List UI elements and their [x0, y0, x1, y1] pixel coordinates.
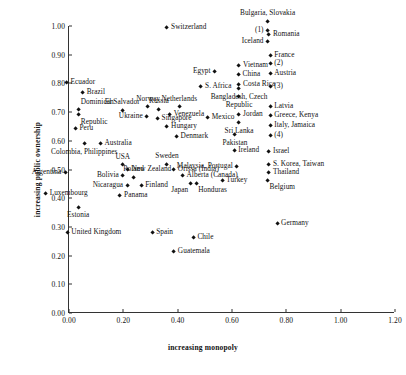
data-point-label: Mexico [212, 113, 235, 121]
data-point-label: (1) [255, 26, 264, 34]
data-point-label: China [243, 70, 261, 78]
y-tick-label: 0.30 [51, 222, 65, 231]
data-point-label: Denmark [181, 132, 209, 140]
data-point-label: Finland [145, 181, 168, 189]
y-tick-label: 1.00 [51, 22, 65, 31]
x-tick-label: 0.80 [280, 316, 294, 325]
data-point-label: Jordan [243, 110, 263, 118]
data-point-label: Nicaragua [93, 181, 123, 189]
y-tick-mark [69, 284, 72, 285]
y-tick-label: 0.90 [51, 50, 65, 59]
data-point-label: Iceland [242, 37, 264, 45]
data-point-label: Ukraine [119, 112, 143, 120]
data-point-label: Sweden [155, 152, 178, 160]
data-point-label: Austria [274, 69, 296, 77]
data-point-label: Luxembourg [50, 189, 88, 197]
data-point-label: Italy, Jamaica [274, 121, 315, 129]
x-tick-mark [69, 309, 70, 312]
y-tick-mark [69, 26, 72, 27]
data-point-label: Netherlands [161, 95, 197, 103]
data-point-marker [63, 170, 68, 175]
data-point-label: Honduras [198, 186, 227, 194]
data-point-label: Belgium [270, 183, 295, 191]
y-tick-label: 0.80 [51, 79, 65, 88]
data-point-marker [265, 19, 270, 24]
y-tick-mark [69, 169, 72, 170]
data-point-label: (4) [274, 131, 283, 139]
data-point-label: Sri Lanka [225, 127, 254, 135]
data-point-marker [43, 191, 48, 196]
x-tick-label: 0.00 [62, 316, 76, 325]
x-tick-label: 0.40 [171, 316, 185, 325]
data-point-label: (2) [274, 59, 283, 67]
data-point-marker [188, 181, 193, 186]
data-point-label: Thailand [273, 168, 299, 176]
y-tick-mark [69, 54, 72, 55]
y-tick-label: 0.70 [51, 108, 65, 117]
data-point-label: Colombia, Philippines [51, 148, 117, 156]
x-tick-mark [340, 309, 341, 312]
y-tick-mark [69, 198, 72, 199]
data-point-label: Chile [197, 233, 213, 241]
data-point-label: Switzerland [171, 23, 206, 31]
data-point-label: United Kingdom [71, 228, 121, 236]
data-point-label: Dominican [81, 98, 114, 106]
data-point-label: Brazil [87, 88, 105, 96]
y-tick-label: 0.20 [51, 251, 65, 260]
x-tick-label: 0.20 [117, 316, 131, 325]
data-point-label: Turkey [226, 176, 247, 184]
x-axis-label: increasing monopoly [0, 343, 406, 352]
x-tick-mark [232, 309, 233, 312]
data-point-label: Greece, Kenya [274, 111, 318, 119]
data-point-label: Germany [281, 219, 309, 227]
data-point-label: (3) [274, 82, 283, 90]
y-tick-label: 0.60 [51, 136, 65, 145]
x-tick-mark [123, 309, 124, 312]
scatter-chart: 0.000.100.200.300.400.500.600.700.800.90… [0, 0, 406, 375]
data-point-label: Panama [124, 191, 147, 199]
data-point-label: Ecuador [71, 78, 96, 86]
y-tick-mark [69, 313, 72, 314]
data-point-label: Peru [80, 124, 94, 132]
data-point-label: Bolivia [97, 171, 119, 179]
data-point-label: Egypt [193, 67, 211, 75]
data-point-label: Japan [171, 186, 188, 194]
x-tick-mark [286, 309, 287, 312]
x-tick-mark [395, 309, 396, 312]
data-point-label: Spain [156, 228, 173, 236]
data-point-label: Ireland [238, 146, 259, 154]
data-point-label: S. Africa [205, 82, 231, 90]
data-point-label: Estonia [67, 211, 89, 219]
y-tick-mark [69, 255, 72, 256]
data-point-label: Bulgaria, Slovakia [240, 9, 295, 17]
y-tick-mark [69, 112, 72, 113]
data-point-label: Vietnam [243, 61, 268, 69]
data-point-label: USA [115, 153, 130, 161]
data-point-label: Hungary [171, 122, 197, 130]
x-tick-label: 0.60 [225, 316, 239, 325]
y-tick-mark [69, 140, 72, 141]
x-tick-label: 1.20 [388, 316, 402, 325]
data-point-label: Romania [273, 30, 300, 38]
data-point-label: Australia [105, 139, 132, 147]
y-tick-label: 0.10 [51, 280, 65, 289]
data-point-label: Guatemala [178, 247, 210, 255]
x-tick-mark [177, 309, 178, 312]
data-point-label: Israel [273, 147, 290, 155]
data-point-label: Republic [226, 101, 253, 109]
data-point-label: Argentina [32, 168, 62, 176]
data-point-label: Poland [123, 165, 144, 173]
data-point-marker [125, 183, 130, 188]
x-tick-label: 1.00 [334, 316, 348, 325]
